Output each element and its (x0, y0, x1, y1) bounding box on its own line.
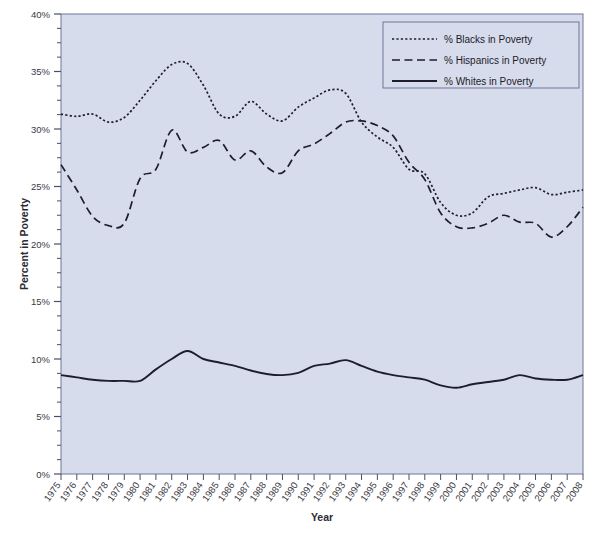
y-tick-label: 40% (31, 9, 51, 20)
legend-label-1: % Hispanics in Poverty (444, 55, 546, 66)
y-tick-label: 30% (31, 124, 51, 135)
y-tick-label: 10% (31, 354, 51, 365)
legend-label-0: % Blacks in Poverty (444, 34, 532, 45)
y-tick-label: 0% (36, 469, 50, 480)
y-tick-label: 25% (31, 181, 51, 192)
y-tick-label: 20% (31, 239, 51, 250)
y-axis-title: Percent in Poverty (18, 198, 30, 290)
y-tick-label: 5% (36, 411, 50, 422)
legend-label-2: % Whites in Poverty (444, 76, 533, 87)
poverty-rate-line-chart: 0%5%10%15%20%25%30%35%40% 19751976197719… (0, 0, 599, 536)
x-axis-title: Year (311, 511, 333, 523)
y-tick-label: 35% (31, 66, 51, 77)
y-tick-label: 15% (31, 296, 51, 307)
